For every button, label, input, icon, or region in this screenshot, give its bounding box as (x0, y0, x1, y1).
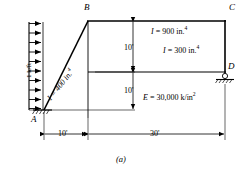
node-label-A: A (31, 115, 37, 124)
material-exponent: 2 (193, 91, 196, 97)
member-BC-label: I = 900 in.4 (151, 28, 187, 36)
member-CD-value: 300 in. (174, 46, 196, 55)
distributed-load-label: 1 k/ft (26, 63, 33, 78)
node-label-B: B (84, 3, 90, 12)
member-CD-exponent: 4 (196, 44, 199, 50)
dim-label-v-lower: 10' (124, 87, 133, 95)
material-value: 30,000 k/in (156, 93, 192, 102)
dim-label-h-10: 10' (58, 130, 67, 138)
dim-label-v-upper: 10' (124, 44, 133, 52)
structural-frame-figure: 1 k/ft I = 400 in.4 B C D A I = 900 in.4… (0, 0, 248, 173)
material-label: E = 30,000 k/in2 (143, 94, 196, 102)
node-label-C: C (229, 3, 235, 12)
horizontal-dimensions (44, 84, 225, 140)
member-BC-exponent: 4 (184, 25, 187, 31)
figure-caption: (a) (116, 155, 126, 164)
support-D (216, 73, 235, 83)
member-BC-value: 900 in. (162, 27, 184, 36)
dim-label-h-30: 30' (150, 130, 159, 138)
node-label-D: D (228, 62, 235, 71)
member-CD-label: I = 300 in.4 (163, 47, 199, 55)
